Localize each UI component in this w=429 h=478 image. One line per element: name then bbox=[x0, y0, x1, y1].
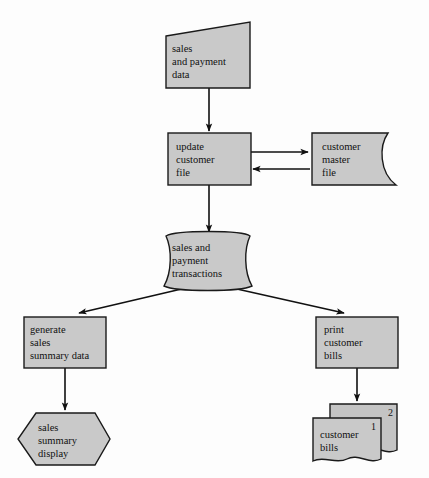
connector-transactions-to-print bbox=[228, 287, 344, 313]
stack-number-back: 2 bbox=[388, 407, 393, 418]
node-print-customer-bills[interactable] bbox=[316, 317, 398, 368]
node-generate-sales-summary-data[interactable] bbox=[24, 317, 106, 368]
node-customer-master-file[interactable] bbox=[312, 133, 396, 185]
stack-number-front: 1 bbox=[371, 421, 376, 432]
flowchart-canvas: sales and payment data update customer f… bbox=[0, 0, 429, 478]
node-sales-summary-display[interactable] bbox=[18, 413, 110, 465]
connector-transactions-to-generate bbox=[79, 287, 190, 313]
flowchart-svg bbox=[0, 0, 429, 478]
node-sales-and-payment-transactions[interactable] bbox=[164, 232, 252, 291]
node-update-customer-file[interactable] bbox=[168, 133, 251, 185]
node-sales-and-payment-data[interactable] bbox=[166, 22, 250, 88]
